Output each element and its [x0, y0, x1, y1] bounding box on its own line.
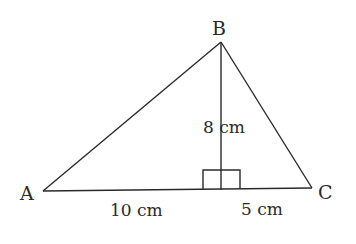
vertex-label-b: B — [212, 17, 226, 39]
vertex-label-a: A — [19, 182, 34, 204]
base-ac — [43, 188, 312, 191]
side-ab — [43, 42, 221, 191]
height-label: 8 cm — [203, 117, 245, 137]
side-bc — [221, 42, 312, 188]
vertex-label-c: C — [318, 181, 333, 203]
base-right-label: 5 cm — [241, 199, 283, 219]
base-left-label: 10 cm — [110, 200, 163, 220]
triangle-diagram: B A C 8 cm 10 cm 5 cm — [0, 0, 356, 244]
